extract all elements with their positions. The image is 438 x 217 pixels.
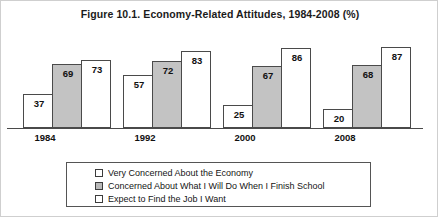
chart-title: Figure 10.1. Economy-Related Attitudes, … bbox=[1, 8, 438, 20]
legend-item-concerned-finish-school: Concerned About What I Will Do When I Fi… bbox=[95, 180, 370, 192]
bar-value: 73 bbox=[82, 64, 112, 75]
x-axis-line bbox=[7, 128, 423, 129]
bar-2000-concerned-finish-school: 67 bbox=[252, 66, 282, 128]
legend-item-very-concerned: Very Concerned About the Economy bbox=[95, 167, 370, 179]
chart-legend: Very Concerned About the Economy Concern… bbox=[66, 162, 371, 207]
legend-item-label: Very Concerned About the Economy bbox=[108, 168, 253, 179]
legend-item-expect-job: Expect to Find the Job I Want bbox=[95, 193, 370, 205]
figure-container: Figure 10.1. Economy-Related Attitudes, … bbox=[0, 0, 438, 217]
plot-area: 37 69 73 57 72 83 25 bbox=[17, 35, 423, 128]
bar-value: 72 bbox=[153, 65, 183, 76]
bar-1984-very-concerned: 37 bbox=[23, 94, 53, 128]
bar-value: 68 bbox=[353, 69, 383, 80]
bar-1984-concerned-finish-school: 69 bbox=[52, 64, 82, 128]
x-tick-label-1992: 1992 bbox=[101, 132, 189, 143]
legend-item-label: Expect to Find the Job I Want bbox=[108, 194, 226, 205]
bar-value: 20 bbox=[324, 113, 354, 124]
bar-1984-expect-job: 73 bbox=[81, 60, 111, 128]
bar-2008-concerned-finish-school: 68 bbox=[352, 65, 382, 128]
bar-1992-expect-job: 83 bbox=[181, 51, 211, 128]
x-tick-label-1984: 1984 bbox=[1, 132, 89, 143]
legend-swatch-icon bbox=[95, 195, 103, 203]
bar-value: 86 bbox=[282, 52, 312, 63]
bar-value: 25 bbox=[224, 109, 254, 120]
bar-value: 67 bbox=[253, 70, 283, 81]
bar-1992-concerned-finish-school: 72 bbox=[152, 61, 182, 128]
legend-item-label: Concerned About What I Will Do When I Fi… bbox=[108, 181, 325, 192]
bar-2008-expect-job: 87 bbox=[381, 47, 411, 128]
bar-value: 83 bbox=[182, 55, 212, 66]
x-tick-label-2000: 2000 bbox=[201, 132, 289, 143]
bar-1992-very-concerned: 57 bbox=[123, 75, 153, 128]
legend-swatch-icon bbox=[95, 169, 103, 177]
x-tick-label-2008: 2008 bbox=[301, 132, 389, 143]
legend-swatch-icon bbox=[95, 182, 103, 190]
bar-2000-very-concerned: 25 bbox=[223, 105, 253, 128]
bar-value: 57 bbox=[124, 79, 154, 90]
bar-value: 69 bbox=[53, 68, 83, 79]
bar-value: 87 bbox=[382, 51, 412, 62]
bar-2008-very-concerned: 20 bbox=[323, 109, 353, 128]
bar-value: 37 bbox=[24, 98, 54, 109]
bar-2000-expect-job: 86 bbox=[281, 48, 311, 128]
